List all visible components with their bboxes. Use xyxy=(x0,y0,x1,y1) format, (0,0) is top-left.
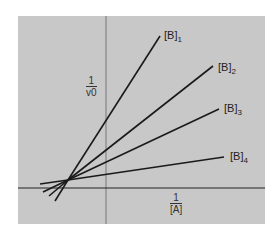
y-axis-label: 1 v0 xyxy=(86,75,97,98)
legend-label-b1: [B]1 xyxy=(164,29,182,44)
x-axis-label: 1 [A] xyxy=(170,192,182,215)
legend-label-b3: [B]3 xyxy=(224,102,242,117)
legend-label-b4: [B]4 xyxy=(230,150,248,165)
legend-label-b2: [B]2 xyxy=(218,61,236,76)
chart-plot xyxy=(0,0,280,243)
